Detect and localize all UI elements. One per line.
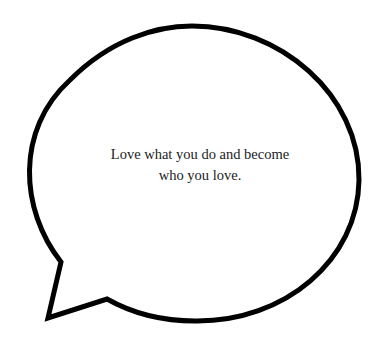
quote-text: Love what you do and become who you love… xyxy=(80,144,320,186)
quote-line-1: Love what you do and become xyxy=(80,144,320,165)
quote-line-2: who you love. xyxy=(80,165,320,186)
speech-bubble-canvas: Love what you do and become who you love… xyxy=(0,0,381,346)
